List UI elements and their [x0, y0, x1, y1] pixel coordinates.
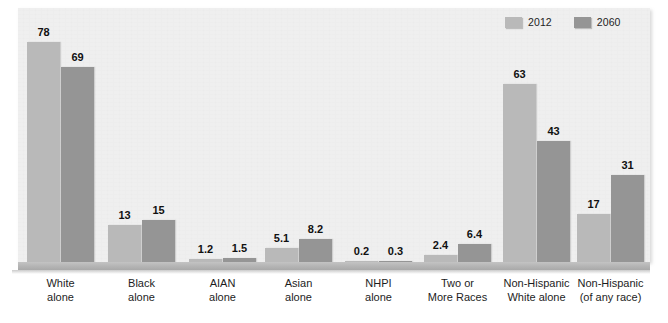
bar-2060-7: 31 [611, 0, 644, 262]
bar-value-label: 0.2 [354, 246, 369, 257]
bar-2012-1: 13 [108, 0, 141, 262]
bars-layer: 786913151.21.55.18.20.20.32.46.463431731 [0, 0, 668, 323]
bar-rect [61, 67, 94, 262]
bar-2012-4: 0.2 [345, 0, 378, 262]
chart-legend: 2012 2060 [505, 17, 621, 28]
axis-baseline-shadow [12, 270, 650, 274]
bar-2060-0: 69 [61, 0, 94, 262]
legend-label-2012: 2012 [528, 17, 552, 28]
legend-swatch-2012 [505, 17, 522, 28]
x-label-line: (of any race) [551, 290, 668, 304]
legend-item-2012: 2012 [505, 17, 552, 28]
bar-chart-figure: 2012 2060 786913151.21.55.18.20.20.32.46… [0, 0, 668, 323]
bar-value-label: 63 [513, 69, 525, 80]
bar-2060-5: 6.4 [458, 0, 491, 262]
legend-item-2060: 2060 [574, 17, 621, 28]
axis-baseline [18, 262, 650, 270]
legend-label-2060: 2060 [597, 17, 621, 28]
bar-value-label: 17 [587, 199, 599, 210]
bar-rect [424, 255, 457, 262]
bar-value-label: 15 [152, 205, 164, 216]
bar-value-label: 6.4 [467, 229, 482, 240]
bar-value-label: 5.1 [274, 233, 289, 244]
bar-2012-0: 78 [27, 0, 60, 262]
bar-2012-3: 5.1 [265, 0, 298, 262]
bar-2060-3: 8.2 [299, 0, 332, 262]
bar-value-label: 1.2 [198, 244, 213, 255]
bar-rect [299, 239, 332, 262]
bar-value-label: 2.4 [433, 240, 448, 251]
bar-value-label: 43 [547, 126, 559, 137]
bar-value-label: 31 [621, 160, 633, 171]
x-label-line: Non-Hispanic [551, 276, 668, 290]
bar-value-label: 0.3 [388, 246, 403, 257]
bar-rect [458, 244, 491, 262]
bar-value-label: 69 [71, 52, 83, 63]
bar-2060-4: 0.3 [379, 0, 412, 262]
bar-2012-5: 2.4 [424, 0, 457, 262]
bar-value-label: 8.2 [308, 224, 323, 235]
bar-value-label: 1.5 [232, 243, 247, 254]
bar-rect [611, 175, 644, 262]
bar-rect [27, 42, 60, 262]
bar-2012-7: 17 [577, 0, 610, 262]
bar-rect [503, 84, 536, 262]
bar-2012-6: 63 [503, 0, 536, 262]
bar-value-label: 13 [118, 210, 130, 221]
bar-rect [537, 141, 570, 262]
x-label-7: Non-Hispanic(of any race) [551, 276, 668, 304]
bar-value-label: 78 [37, 27, 49, 38]
bar-2060-6: 43 [537, 0, 570, 262]
bar-2060-2: 1.5 [223, 0, 256, 262]
legend-swatch-2060 [574, 17, 591, 28]
x-axis-labels: WhitealoneBlackaloneAIANaloneAsianaloneN… [0, 276, 668, 320]
bar-2060-1: 15 [142, 0, 175, 262]
bar-rect [265, 248, 298, 262]
bar-2012-2: 1.2 [189, 0, 222, 262]
bar-rect [577, 214, 610, 262]
bar-rect [108, 225, 141, 262]
bar-rect [142, 220, 175, 262]
